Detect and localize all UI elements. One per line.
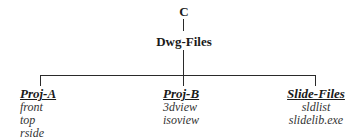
list-item: slidelib.exe [287, 114, 345, 127]
branch-label: Proj-B [163, 87, 199, 101]
branch-label: Proj-A [20, 87, 56, 101]
branch-label: Slide-Files [287, 87, 345, 101]
list-item: rside [20, 127, 56, 140]
branch-slide-files: Slide-Files sldlist slidelib.exe [287, 87, 345, 127]
connector-proj-b [183, 75, 184, 86]
branch-proj-b: Proj-B 3dview isoview [163, 87, 199, 127]
root-node: C [179, 5, 188, 19]
list-item: isoview [163, 114, 199, 127]
connector-root [183, 19, 184, 31]
dwg-files-node: Dwg-Files [156, 35, 212, 49]
branch-proj-a: Proj-A front top rside [20, 87, 56, 140]
connector-slide-files [315, 75, 316, 86]
connector-proj-a [40, 75, 41, 86]
connector-horizontal [40, 75, 316, 76]
connector-dwg [183, 50, 184, 75]
